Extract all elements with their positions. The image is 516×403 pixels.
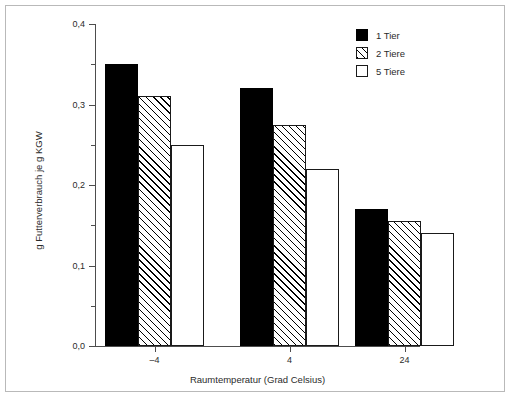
x-tick-label: 4 [260, 355, 320, 365]
y-tick-major [89, 185, 95, 186]
bar-neg4-series-1 [105, 64, 138, 346]
x-tick-label: –4 [125, 355, 185, 365]
bar-chart: 0,00,10,20,30,4 –4424 Raumtemperatur (Gr… [0, 0, 516, 403]
x-tick [155, 346, 156, 352]
x-axis-title: Raumtemperatur (Grad Celsius) [95, 374, 420, 385]
y-tick-label: 0,2 [55, 180, 85, 190]
bar-4-series-1 [240, 88, 273, 346]
legend-item: 2 Tiere [356, 44, 405, 62]
legend-swatch-solid-icon [356, 29, 368, 41]
legend-swatch-open-icon [356, 65, 368, 77]
y-tick-major [89, 266, 95, 267]
x-axis-line [95, 346, 420, 347]
y-tick-major [89, 24, 95, 25]
legend-item: 1 Tier [356, 26, 405, 44]
chart-legend: 1 Tier2 Tiere5 Tiere [356, 26, 405, 80]
y-tick-label: 0,1 [55, 261, 85, 271]
x-tick-label: 24 [375, 355, 435, 365]
bar-24-series-1 [355, 209, 388, 346]
legend-label: 1 Tier [376, 30, 400, 41]
y-tick-minor [91, 306, 95, 307]
bar-neg4-series-2 [138, 96, 171, 346]
y-tick-label: 0,4 [55, 19, 85, 29]
y-tick-minor [91, 225, 95, 226]
bar-24-series-3 [421, 233, 454, 346]
legend-swatch-hatch-icon [356, 47, 368, 59]
legend-item: 5 Tiere [356, 62, 405, 80]
y-axis-title: g Futterverbrauch je g KGW [33, 91, 44, 291]
y-tick-label: 0,0 [55, 341, 85, 351]
y-tick-minor [91, 145, 95, 146]
bar-24-series-2 [388, 221, 421, 346]
legend-label: 2 Tiere [376, 48, 405, 59]
y-axis-line [95, 24, 96, 347]
y-tick-major [89, 105, 95, 106]
legend-label: 5 Tiere [376, 66, 405, 77]
x-tick [405, 346, 406, 352]
bar-4-series-3 [306, 169, 339, 346]
y-tick-label: 0,3 [55, 100, 85, 110]
bar-neg4-series-3 [171, 145, 204, 346]
y-tick-minor [91, 64, 95, 65]
y-tick-major [89, 346, 95, 347]
bar-4-series-2 [273, 125, 306, 346]
x-tick [290, 346, 291, 352]
